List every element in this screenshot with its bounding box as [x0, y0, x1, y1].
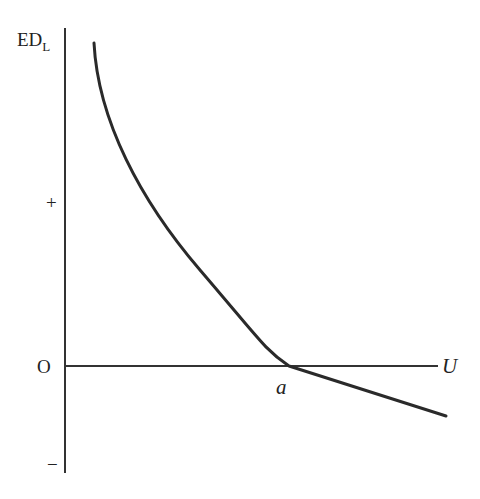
chart-svg: EDL + O − U a — [0, 0, 480, 499]
intercept-label-a: a — [276, 375, 287, 399]
ed-curve — [94, 43, 446, 416]
chart: EDL + O − U a — [0, 0, 480, 499]
tick-origin: O — [37, 356, 51, 377]
x-axis-label: U — [442, 354, 459, 378]
y-axis-label: EDL — [17, 29, 50, 54]
tick-negative: − — [47, 454, 58, 475]
tick-positive: + — [46, 192, 57, 213]
